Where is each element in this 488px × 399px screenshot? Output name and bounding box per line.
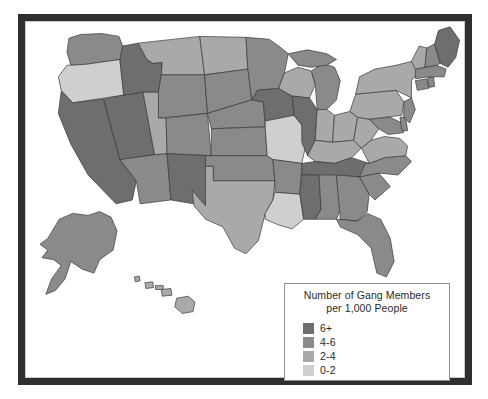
legend-title-line2: per 1,000 People [285,302,449,315]
contiguous-states [58,27,459,277]
state-AK[interactable] [40,212,117,295]
legend-label-0-2: 0-2 [320,365,336,376]
legend-title-line1: Number of Gang Members [285,289,449,302]
legend-label-2-4: 2-4 [320,351,336,362]
legend-swatch-4-6 [303,337,314,348]
state-WY[interactable] [158,75,207,118]
state-group-alaska [40,212,117,295]
map-legend: Number of Gang Members per 1,000 People … [284,283,450,381]
state-group-hawaii[interactable] [134,276,195,314]
state-FL[interactable] [336,213,394,277]
legend-entry[interactable]: 4-6 [303,336,449,349]
legend-swatch-2-4 [303,351,314,362]
state-OR[interactable] [58,59,123,102]
legend-entry-list: 6+ 4-6 2-4 0-2 [303,322,449,377]
state-CT[interactable] [415,79,428,91]
state-HI-bigisland[interactable] [175,296,195,313]
legend-label-4-6: 4-6 [320,337,336,348]
legend-entry[interactable]: 6+ [303,322,449,335]
legend-entry[interactable]: 2-4 [303,350,449,363]
state-CO[interactable] [166,113,211,155]
map-frame: Number of Gang Members per 1,000 People … [18,14,472,385]
legend-entry[interactable]: 0-2 [303,364,449,377]
state-MI[interactable] [311,63,340,109]
state-MS[interactable] [300,175,321,219]
state-AR[interactable] [273,160,302,195]
state-OK[interactable] [206,156,275,181]
state-PA[interactable] [350,90,404,119]
state-HI-maui[interactable] [161,289,172,297]
state-MI-upper[interactable] [288,50,336,67]
state-HI-oahu[interactable] [145,282,154,289]
state-HI-molokai[interactable] [156,286,164,290]
state-HI-kauai[interactable] [134,276,140,282]
screenshot-root: Number of Gang Members per 1,000 People … [0,0,488,399]
legend-swatch-0-2 [303,365,314,376]
legend-swatch-6plus [303,323,314,334]
state-NJ[interactable] [404,98,416,123]
state-IN[interactable] [315,110,334,143]
state-KS[interactable] [211,127,267,156]
state-ND[interactable] [200,36,248,74]
state-RI[interactable] [428,77,435,88]
state-VT[interactable] [411,46,426,69]
legend-label-6plus: 6+ [320,323,332,334]
